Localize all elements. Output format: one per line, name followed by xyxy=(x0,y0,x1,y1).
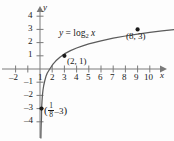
equation-base: 2 xyxy=(85,32,88,39)
point-label-2-1: (2, 1) xyxy=(67,57,87,66)
y-tick-label-4: 4 xyxy=(28,11,33,20)
logarithm-graph-figure: x y –2 1 2 3 4 5 6 7 8 9 10 4 3 2 1 –1 –… xyxy=(0,0,174,141)
equation-function-name: log xyxy=(73,28,85,38)
x-tick-label-4: 4 xyxy=(74,73,79,82)
y-tick-label--4: –4 xyxy=(24,116,33,125)
equation-annotation: y = log2 x xyxy=(59,29,95,39)
x-tick-label-6: 6 xyxy=(98,73,103,82)
data-point-oneeighth-neg3 xyxy=(39,107,43,111)
equation-lhs: y xyxy=(59,28,63,38)
equation-argument: x xyxy=(91,28,95,38)
y-tick-label-2: 2 xyxy=(28,37,33,46)
x-tick-label-9: 9 xyxy=(134,73,139,82)
x-tick-label--2: –2 xyxy=(9,73,18,82)
x-axis-label: x xyxy=(160,71,164,80)
x-tick-label-7: 7 xyxy=(110,73,115,82)
y-tick-label--2: –2 xyxy=(24,90,33,99)
x-tick-label-8: 8 xyxy=(122,73,127,82)
point-label-8-3: (8, 3) xyxy=(126,32,146,41)
x-tick-label-10: 10 xyxy=(144,73,153,82)
label-close-paren: ) xyxy=(63,104,67,116)
y-tick-label-1: 1 xyxy=(28,50,33,59)
x-tick-label-2: 2 xyxy=(50,73,55,82)
data-point-2-1 xyxy=(62,54,66,58)
y-axis-label: y xyxy=(43,3,47,12)
x-tick-label-3: 3 xyxy=(62,73,67,82)
point-label-oneeighth-neg3: (18–3) xyxy=(44,102,67,118)
y-tick-label--1: –1 xyxy=(24,77,33,86)
x-tick-label-5: 5 xyxy=(86,73,91,82)
log-curve xyxy=(41,30,174,139)
y-tick-label-3: 3 xyxy=(28,24,33,33)
label-open-paren: ( xyxy=(44,104,48,116)
y-tick-label--3: –3 xyxy=(24,103,33,112)
equation-equals: = xyxy=(66,28,71,38)
x-tick-label-1: 1 xyxy=(38,73,43,82)
